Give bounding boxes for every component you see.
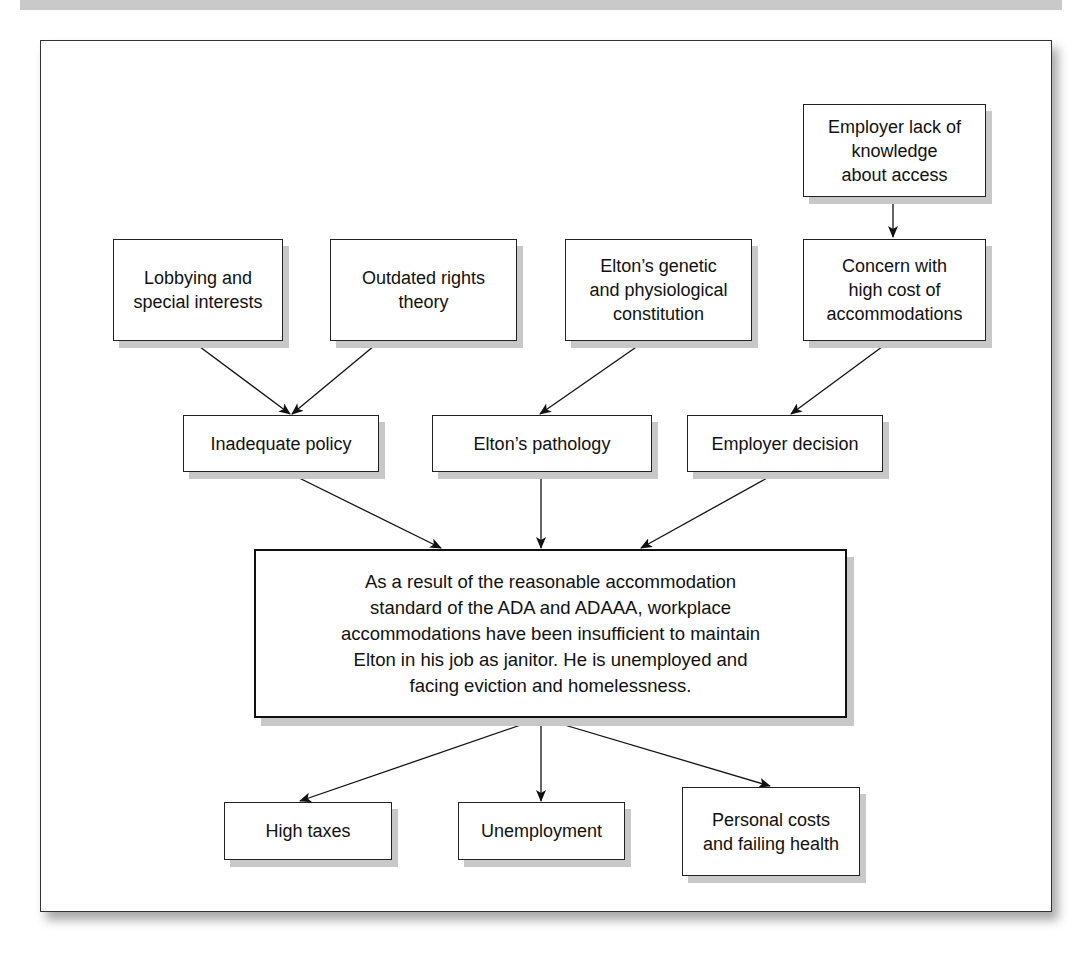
box-personal-costs-failing-health: Personal costs and failing health [682, 787, 860, 876]
box-outdated-rights-theory: Outdated rights theory [330, 239, 517, 341]
arrow-employer-decision-to-center [641, 472, 778, 548]
arrow-concern-to-employer-decision [791, 341, 890, 414]
box-unemployment: Unemployment [458, 802, 625, 860]
box-eltons-pathology: Elton’s pathology [432, 415, 652, 472]
box-lobbying-special-interests: Lobbying and special interests [113, 239, 283, 341]
box-employer-lack-of-knowledge: Employer lack of knowledge about access [803, 104, 986, 197]
box-eltons-genetic-constitution: Elton’s genetic and physiological consti… [565, 239, 752, 341]
box-inadequate-policy: Inadequate policy [183, 415, 379, 472]
arrow-lobbying-to-inadequate [192, 341, 290, 414]
box-concern-high-cost: Concern with high cost of accommodations [803, 239, 986, 341]
box-central-problem: As a result of the reasonable accommodat… [254, 549, 847, 718]
box-high-taxes: High taxes [224, 802, 392, 860]
arrow-center-to-personal [541, 718, 770, 786]
arrow-outdated-to-inadequate [292, 341, 380, 414]
arrow-center-to-taxes [300, 718, 541, 801]
arrow-genetic-to-pathology [540, 341, 645, 414]
arrow-inadequate-to-center [287, 472, 441, 548]
box-employer-decision: Employer decision [687, 415, 883, 472]
